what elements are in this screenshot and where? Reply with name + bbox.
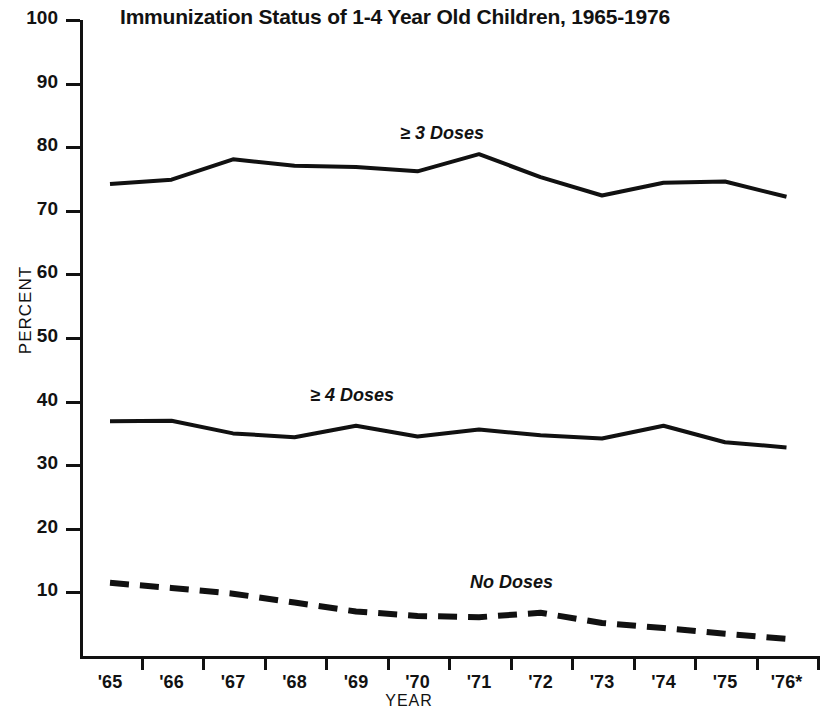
series-line-no-doses [110, 583, 787, 639]
series-line-three-doses [110, 154, 787, 197]
series-label-three-doses: ≥ 3 Doses [400, 123, 484, 144]
series-label-four-doses: ≥ 4 Doses [310, 385, 394, 406]
series-line-four-doses [110, 421, 787, 448]
series-label-no-doses: No Doses [470, 572, 553, 593]
